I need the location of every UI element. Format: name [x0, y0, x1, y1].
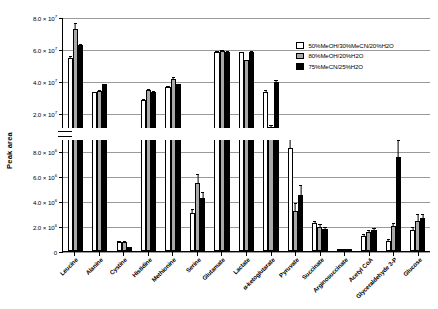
- x-axis-label-4: Methionine: [160, 255, 185, 309]
- error-bar: [300, 185, 301, 195]
- error-bar: [398, 140, 399, 158]
- error-bar: [129, 247, 130, 248]
- error-bar: [119, 241, 120, 243]
- bar: [274, 132, 279, 251]
- error-bar: [94, 92, 95, 94]
- error-bar: [314, 221, 315, 225]
- bar-group: [283, 139, 307, 251]
- bar-group: [112, 139, 136, 251]
- bar-group: [185, 139, 209, 251]
- legend-swatch: [296, 42, 304, 49]
- bar-group: [381, 18, 405, 130]
- bar: [371, 230, 376, 251]
- bar-groups: [63, 18, 430, 130]
- upper-axis-panel: 2.0 × 1074.0 × 1076.0 × 1078.0 × 107: [62, 18, 430, 130]
- x-axis-label-8: α-ketoglutarate: [258, 255, 283, 309]
- error-bar: [276, 80, 277, 83]
- bar-group: [234, 18, 258, 130]
- bar: [102, 84, 107, 130]
- bar: [347, 249, 352, 252]
- x-axis-label-text: Lactate: [231, 256, 251, 276]
- axis-tick-label: 0: [54, 249, 57, 256]
- error-bar: [374, 228, 375, 231]
- bar-group: [259, 18, 283, 130]
- error-bar: [217, 51, 218, 52]
- bar-group: [381, 139, 405, 251]
- error-bar: [197, 174, 198, 184]
- bar: [225, 52, 230, 130]
- x-axis-label-0: Leucine: [62, 255, 87, 309]
- bar: [151, 92, 156, 130]
- x-axis-label-6: Glutamate: [209, 255, 234, 309]
- error-bar: [153, 91, 154, 92]
- axis-tick-label: 2.0 × 107: [33, 110, 57, 118]
- lower-axis-panel: 02.0 × 1064.0 × 1066.0 × 1068.0 × 106: [62, 139, 430, 252]
- error-bar: [70, 56, 71, 59]
- error-bar: [143, 99, 144, 100]
- error-bar: [368, 230, 369, 233]
- bar: [274, 82, 279, 130]
- bar-group: [63, 18, 87, 130]
- axis-tick-label: 4.0 × 107: [33, 78, 57, 86]
- error-bar: [168, 86, 169, 88]
- bar: [249, 132, 254, 251]
- error-bar: [75, 23, 76, 30]
- bar: [102, 132, 107, 251]
- bar-group: [210, 18, 234, 130]
- bar: [263, 92, 268, 130]
- axis-tick-label: 4.0 × 106: [33, 198, 57, 206]
- x-axis-label-9: Pyruvate: [283, 255, 308, 309]
- error-bar: [173, 77, 174, 80]
- error-bar: [422, 214, 423, 219]
- axis-tick-label: 2.0 × 106: [33, 223, 57, 231]
- bar: [225, 132, 230, 251]
- bar-group: [87, 18, 111, 130]
- x-axis-label-3: Histidine: [136, 255, 161, 309]
- bar-group: [332, 18, 356, 130]
- error-bar: [202, 192, 203, 200]
- bar: [127, 247, 132, 251]
- legend-swatch: [296, 63, 304, 70]
- error-bar: [80, 44, 81, 46]
- error-bar: [251, 51, 252, 53]
- bar-group: [406, 139, 430, 251]
- bar-group: [161, 139, 185, 251]
- x-axis-label-text: Leucine: [58, 256, 79, 277]
- bar-group: [185, 18, 209, 130]
- error-bar: [363, 234, 364, 237]
- bar-group: [136, 18, 160, 130]
- x-axis-label-1: Alanine: [87, 255, 112, 309]
- error-bar: [265, 90, 266, 92]
- error-bar: [104, 84, 105, 86]
- error-bar: [295, 203, 296, 212]
- y-axis-title: Peak area: [2, 95, 16, 205]
- legend-item[interactable]: 50%MeOH/30%MeCN/20%H2O: [296, 42, 394, 49]
- legend-item[interactable]: 75%MeCN/25%H2O: [296, 63, 394, 70]
- bar-group: [63, 139, 87, 251]
- legend-label: 75%MeCN/25%H2O: [309, 63, 363, 70]
- error-bar: [417, 214, 418, 222]
- bar: [298, 195, 303, 252]
- bar: [176, 84, 181, 130]
- bar-group: [357, 139, 381, 251]
- x-axis-labels: LeucineAlanineCystineHistidineMethionine…: [62, 255, 430, 309]
- legend-label: 50%MeOH/30%MeCN/20%H2O: [309, 42, 394, 49]
- bar-group: [332, 139, 356, 251]
- error-bar: [178, 84, 179, 86]
- x-axis-label-14: Glucose: [405, 255, 430, 309]
- bar-group: [308, 18, 332, 130]
- x-axis-label-text: Serine: [184, 256, 202, 274]
- legend-label: 80%MeOH/20%H2O: [309, 52, 364, 59]
- bar-group: [357, 18, 381, 130]
- bar: [396, 157, 401, 251]
- axis-tick-label: 8.0 × 106: [33, 148, 57, 156]
- bar-group: [259, 139, 283, 251]
- error-bar: [227, 51, 228, 52]
- peak-area-bar-chart: Peak area 2.0 × 1074.0 × 1076.0 × 1078.0…: [0, 0, 438, 309]
- legend: 50%MeOH/30%MeCN/20%H2O80%MeOH/20%H2O75%M…: [296, 42, 394, 73]
- bar-group: [161, 18, 185, 130]
- legend-item[interactable]: 80%MeOH/20%H2O: [296, 52, 394, 59]
- error-bar: [388, 239, 389, 242]
- x-axis-label-2: Cystine: [111, 255, 136, 309]
- bar-group: [283, 18, 307, 130]
